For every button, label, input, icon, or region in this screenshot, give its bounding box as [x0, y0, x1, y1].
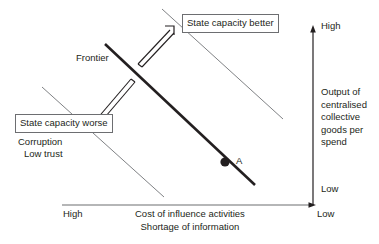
x-axis-title: Cost of influence activities Shortage of… [135, 208, 245, 233]
frontier-diagram: State capacity better State capacity wor… [0, 0, 379, 244]
x-axis-low-label: Low [317, 208, 334, 221]
y-axis-title: Output of centralised collective goods p… [321, 86, 367, 149]
y-axis-high-label: High [321, 20, 341, 33]
callout-state-capacity-worse: State capacity worse [15, 114, 113, 133]
x-axis [62, 202, 316, 208]
point-a-label: A [236, 155, 242, 168]
better-shift-arrow-icon [138, 26, 174, 67]
y-axis-low-label: Low [321, 183, 338, 196]
point-a-marker [220, 157, 229, 166]
frontier-label: Frontier [76, 52, 109, 65]
x-axis-high-label: High [63, 208, 83, 221]
note-low-trust: Low trust [24, 148, 63, 161]
callout-state-capacity-better: State capacity better [182, 14, 279, 33]
note-corruption: Corruption [18, 136, 62, 149]
y-axis [310, 25, 316, 205]
